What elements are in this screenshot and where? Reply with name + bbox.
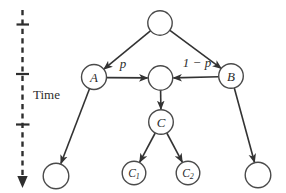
node-mid: [148, 66, 172, 90]
nodes: A B C C1 C2: [43, 11, 271, 189]
node-b-label: B: [227, 69, 235, 84]
node-c-label: C: [157, 115, 166, 130]
node-leaf-left: [43, 163, 69, 189]
edge-c-to-c2: [167, 133, 183, 162]
edges: [61, 30, 255, 163]
node-root: [148, 11, 172, 35]
diagram-canvas: Time p 1 − p A B C: [0, 0, 286, 193]
edge-label-one-minus-p: 1 − p: [183, 55, 212, 70]
edge-label-p: p: [119, 56, 127, 71]
edge-c-to-c1: [140, 133, 156, 162]
edge-a-to-leaf-left: [61, 89, 90, 164]
node-leaf-right: [245, 162, 271, 188]
edge-b-to-leaf-right: [234, 88, 254, 162]
time-axis-label: Time: [33, 87, 60, 102]
edge-b-to-mid: [173, 77, 218, 78]
node-c1-subscript: 1: [136, 172, 140, 181]
time-axis: Time: [16, 10, 60, 188]
branching-process-diagram: Time p 1 − p A B C: [0, 0, 286, 193]
node-c2-subscript: 2: [190, 172, 194, 181]
edge-root-to-a: [104, 31, 151, 70]
time-axis-arrowhead-icon: [17, 176, 27, 188]
node-a-label: A: [89, 70, 98, 85]
